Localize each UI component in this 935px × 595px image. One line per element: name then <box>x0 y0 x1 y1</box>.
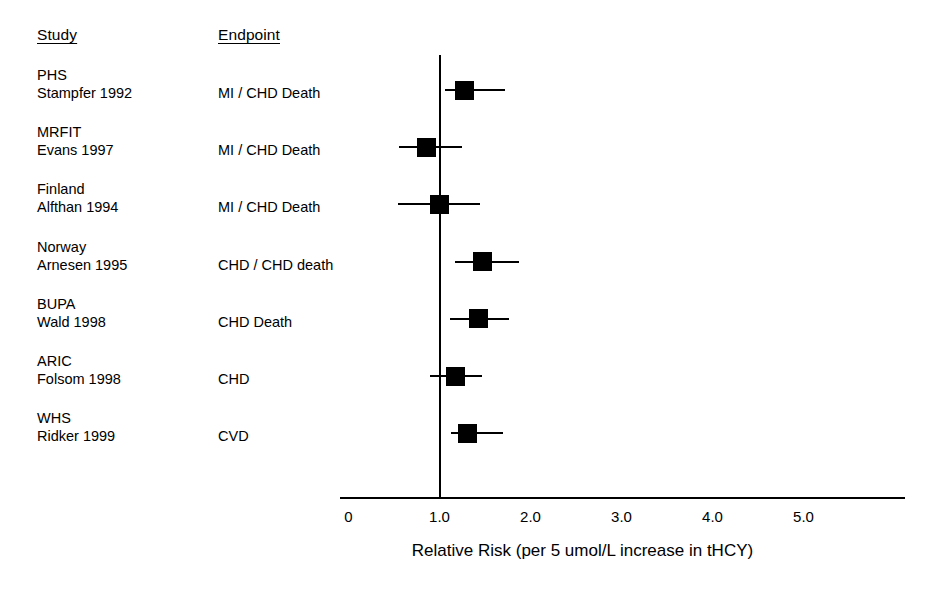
endpoint-label: CHD / CHD death <box>218 256 418 274</box>
endpoint-label: MI / CHD Death <box>218 84 418 102</box>
study-author: Evans 1997 <box>37 141 212 159</box>
x-axis-tick-label: 1.0 <box>429 508 450 525</box>
column-header-study: Study <box>37 26 77 44</box>
confidence-interval-line <box>455 261 519 263</box>
study-name: BUPA <box>37 295 212 313</box>
x-axis-tick-label: 3.0 <box>611 508 632 525</box>
study-label: MRFITEvans 1997 <box>37 123 212 159</box>
study-name: Norway <box>37 238 212 256</box>
study-label: PHSStampfer 1992 <box>37 66 212 102</box>
study-author: Folsom 1998 <box>37 370 212 388</box>
study-name: PHS <box>37 66 212 84</box>
point-estimate-marker <box>458 424 477 443</box>
study-label: BUPAWald 1998 <box>37 295 212 331</box>
confidence-interval-line <box>451 432 503 434</box>
study-author: Alfthan 1994 <box>37 198 212 216</box>
study-author: Ridker 1999 <box>37 427 212 445</box>
study-name: WHS <box>37 409 212 427</box>
point-estimate-marker <box>473 252 492 271</box>
forest-plot: Study Endpoint PHSStampfer 1992MI / CHD … <box>0 0 935 595</box>
x-axis-title: Relative Risk (per 5 umol/L increase in … <box>0 541 935 561</box>
study-name: MRFIT <box>37 123 212 141</box>
point-estimate-marker <box>469 309 488 328</box>
endpoint-label: CVD <box>218 427 418 445</box>
column-header-endpoint: Endpoint <box>218 26 280 44</box>
study-name: Finland <box>37 180 212 198</box>
x-axis-tick-label: 2.0 <box>520 508 541 525</box>
study-author: Stampfer 1992 <box>37 84 212 102</box>
endpoint-label: MI / CHD Death <box>218 198 418 216</box>
x-axis-line <box>340 497 905 499</box>
confidence-interval-line <box>445 89 505 91</box>
null-reference-line <box>439 55 441 497</box>
point-estimate-marker <box>417 138 436 157</box>
x-axis-tick-label: 0 <box>344 508 352 525</box>
endpoint-label: MI / CHD Death <box>218 141 418 159</box>
study-label: NorwayArnesen 1995 <box>37 238 212 274</box>
study-label: FinlandAlfthan 1994 <box>37 180 212 216</box>
study-author: Arnesen 1995 <box>37 256 212 274</box>
endpoint-label: CHD <box>218 370 418 388</box>
study-author: Wald 1998 <box>37 313 212 331</box>
x-axis-tick-label: 5.0 <box>793 508 814 525</box>
study-name: ARIC <box>37 352 212 370</box>
endpoint-label: CHD Death <box>218 313 418 331</box>
point-estimate-marker <box>446 367 465 386</box>
x-axis-title-text: Relative Risk (per 5 umol/L increase in … <box>182 541 753 560</box>
study-label: WHSRidker 1999 <box>37 409 212 445</box>
x-axis-tick-label: 4.0 <box>702 508 723 525</box>
point-estimate-marker <box>455 81 474 100</box>
point-estimate-marker <box>430 195 449 214</box>
confidence-interval-line <box>450 318 508 320</box>
confidence-interval-line <box>430 375 482 377</box>
study-label: ARICFolsom 1998 <box>37 352 212 388</box>
